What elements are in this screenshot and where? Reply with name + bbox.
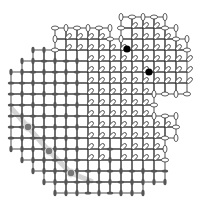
lattice-cell: [66, 105, 77, 116]
filled-dimer: [41, 81, 47, 84]
filled-dimer: [107, 147, 113, 150]
lattice-cell: [55, 94, 66, 105]
filled-dimer: [19, 81, 25, 84]
hollow-dimer: [53, 35, 57, 42]
lattice-cell: [77, 94, 88, 105]
filled-dimer: [9, 146, 12, 152]
lattice-cell: [22, 61, 33, 72]
filled-dimer: [64, 179, 67, 185]
hollow-dimer: [161, 92, 168, 96]
filled-dimer: [63, 103, 69, 106]
filled-dimer: [74, 92, 80, 95]
filled-dimer: [75, 146, 78, 152]
lattice-cell: [66, 83, 77, 94]
hollow-dimer: [64, 24, 68, 31]
hollow-dimer: [119, 35, 123, 42]
filled-dimer: [53, 146, 56, 152]
hollow-dimer: [106, 37, 113, 41]
lattice-cell: [88, 182, 99, 193]
filled-dimer: [42, 179, 45, 185]
lattice-cell: [110, 171, 121, 182]
filled-dimer: [53, 179, 56, 185]
filled-dimer: [141, 168, 144, 174]
lattice-cell: [110, 149, 121, 160]
lattice-cell: [132, 182, 143, 193]
filled-dimer: [119, 168, 122, 174]
lattice-cell: [132, 160, 143, 171]
filled-dimer: [129, 169, 135, 172]
lattice-cell: [66, 94, 77, 105]
filled-dimer: [74, 136, 80, 139]
lattice-cell: [77, 83, 88, 94]
hollow-dimer: [141, 13, 145, 20]
filled-dimer: [31, 80, 34, 86]
lattice-cell: [99, 182, 110, 193]
lattice-cell: [99, 171, 110, 182]
filled-dimer: [31, 58, 34, 64]
lattice-cell: [55, 138, 66, 149]
filled-dimer: [74, 70, 80, 73]
filled-dimer: [42, 168, 45, 174]
lattice-cell: [77, 105, 88, 116]
filled-dimer: [74, 114, 80, 117]
lattice-cell: [55, 171, 66, 182]
filled-dimer: [20, 135, 23, 141]
filled-dimer: [41, 103, 47, 106]
lattice-cell: [33, 160, 44, 171]
lattice-cell: [121, 171, 132, 182]
filled-dimer: [42, 91, 45, 97]
filled-dimer: [86, 179, 89, 185]
lattice-cell: [66, 50, 77, 61]
lattice-cell: [77, 61, 88, 72]
filled-dimer: [63, 125, 69, 128]
hollow-dimer: [161, 114, 168, 118]
lattice-cell: [33, 105, 44, 116]
lattice-cell: [11, 127, 22, 138]
gray-defect-dot: [67, 169, 75, 177]
lattice-cell: [77, 182, 88, 193]
hollow-dimer: [172, 125, 179, 129]
lattice-cell: [132, 171, 143, 182]
hollow-dimer: [51, 26, 58, 30]
hollow-dimer: [108, 24, 112, 31]
filled-dimer: [96, 180, 102, 183]
filled-dimer: [64, 91, 67, 97]
lattice-cell: [66, 149, 77, 160]
hollow-dimer: [161, 158, 168, 162]
filled-dimer: [74, 158, 80, 161]
lattice-cell: [66, 138, 77, 149]
filled-dimer: [163, 179, 166, 185]
filled-dimer: [42, 157, 45, 163]
hollow-dimer: [117, 26, 124, 30]
lattice-cell: [44, 171, 55, 182]
filled-dimer: [8, 81, 14, 84]
filled-dimer: [30, 114, 36, 117]
lattice-cell: [88, 160, 99, 171]
hollow-dimer: [73, 26, 80, 30]
filled-dimer: [107, 169, 113, 172]
lattice-cell: [22, 105, 33, 116]
lattice-cell: [110, 138, 121, 149]
filled-dimer: [141, 190, 144, 196]
filled-dimer: [31, 146, 34, 152]
lattice-cell: [121, 160, 132, 171]
lattice-cell: [99, 160, 110, 171]
lattice-cell: [55, 116, 66, 127]
filled-dimer: [64, 135, 67, 141]
lattice-cell: [55, 72, 66, 83]
lattice-cell: [66, 72, 77, 83]
filled-dimer: [162, 169, 168, 172]
hollow-dimer: [183, 92, 190, 96]
lattice-cell: [44, 94, 55, 105]
filled-dimer: [53, 102, 56, 108]
hollow-dimer: [185, 35, 189, 42]
hollow-dimer: [174, 90, 178, 97]
lattice-cell: [77, 149, 88, 160]
hollow-dimer: [174, 24, 178, 31]
lattice-cell: [66, 116, 77, 127]
lattice-cell: [55, 83, 66, 94]
lattice-cell: [33, 72, 44, 83]
filled-dimer: [64, 113, 67, 119]
lattice-cell: [11, 138, 22, 149]
filled-dimer: [8, 125, 14, 128]
